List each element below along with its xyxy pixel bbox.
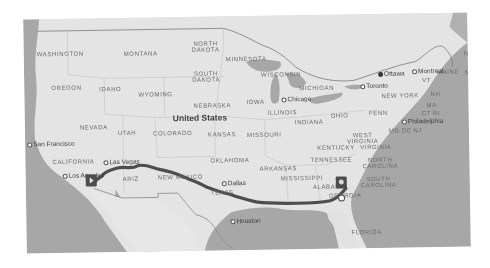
city-label-ottawa[interactable]: Ottawa xyxy=(378,70,405,77)
city-name: Dallas xyxy=(228,179,246,186)
state-label-tennessee: TENNESSEE xyxy=(310,156,352,163)
city-label-las-vegas[interactable]: Las Vegas xyxy=(103,158,139,166)
city-label-toronto[interactable]: Toronto xyxy=(360,82,388,89)
city-name: Houston xyxy=(236,217,260,224)
state-label-wisconsin: WISCONSIN xyxy=(261,71,301,78)
city-label-philadelphia[interactable]: Philadelphia xyxy=(402,117,444,125)
destination-point-icon[interactable] xyxy=(338,194,345,201)
state-label-colorado: COLORADO xyxy=(153,130,192,137)
state-label-oklahoma: OKLAHOMA xyxy=(210,157,249,164)
state-label-wyoming: WYOMING xyxy=(138,91,172,98)
state-label-penn: PENN xyxy=(369,110,388,116)
state-label-nebraska: NEBRASKA xyxy=(194,102,232,109)
state-label-illinois: ILLINOIS xyxy=(268,109,298,115)
state-label-ohio: OHIO xyxy=(331,112,349,118)
city-name: Ottawa xyxy=(384,70,405,77)
state-label-md-de-nj: MD DE NJ xyxy=(389,127,422,134)
city-dot-icon xyxy=(27,142,32,147)
state-label-nb: NB xyxy=(464,50,471,56)
origin-marker-icon[interactable] xyxy=(86,174,97,186)
state-label-oregon: OREGON xyxy=(51,85,81,91)
state-label-south-carolina: SOUTHCAROLINA xyxy=(361,176,397,189)
city-label-san-francisco[interactable]: San Francisco xyxy=(27,140,75,148)
city-name: San Francisco xyxy=(33,140,75,148)
city-label-houston[interactable]: Houston xyxy=(230,217,260,224)
state-label-ma: MA xyxy=(427,102,437,108)
state-label-south-dakota: SOUTHDAKOTA xyxy=(192,70,220,82)
state-label-west-virginia: WESTVIRGINIA xyxy=(347,132,378,144)
state-label-missouri: MISSOURI xyxy=(247,131,282,138)
state-label-north-carolina: NORTHCAROLINA xyxy=(362,157,398,170)
city-name: Philadelphia xyxy=(408,117,444,125)
state-label-ct-ri: CT RI xyxy=(422,110,441,116)
city-dot-icon xyxy=(281,97,286,102)
city-name: Montreal xyxy=(418,67,443,74)
city-label-montreal[interactable]: Montreal xyxy=(412,67,443,74)
city-dot-icon xyxy=(360,84,365,89)
city-dot-icon xyxy=(222,181,227,186)
state-label-kentucky: KENTUCKY xyxy=(317,144,355,151)
city-name: Las Vegas xyxy=(109,158,139,165)
state-label-nevada: NEVADA xyxy=(80,124,108,130)
state-label-vt: VT xyxy=(422,77,431,83)
state-label-michigan: MICHIGAN xyxy=(299,85,334,92)
state-label-nova: NOVA xyxy=(465,69,471,75)
state-label-nh: NH xyxy=(430,91,440,97)
city-label-chicago[interactable]: Chicago xyxy=(281,95,311,102)
state-label-utah: UTAH xyxy=(118,130,136,136)
state-label-iowa: IOWA xyxy=(246,99,264,105)
city-dot-icon xyxy=(230,219,235,224)
city-name: Chicago xyxy=(287,95,311,102)
state-label-arkansas: ARKANSAS xyxy=(260,165,298,172)
state-label-arizona: ARIZ xyxy=(123,176,139,182)
city-label-dallas[interactable]: Dallas xyxy=(222,179,246,186)
city-name: Toronto xyxy=(366,82,388,89)
state-label-texas: TEXAS xyxy=(211,189,234,195)
city-dot-icon xyxy=(402,119,407,124)
country-label: United States xyxy=(173,112,227,123)
state-label-indiana: INDIANA xyxy=(295,119,324,125)
city-dot-icon xyxy=(63,174,68,179)
state-label-montana: MONTANA xyxy=(124,50,158,57)
city-dot-icon xyxy=(378,72,383,77)
state-label-new-york: NEW YORK xyxy=(381,92,418,99)
state-label-minnesota: MINNESOTA xyxy=(226,56,267,63)
city-dot-icon xyxy=(412,69,417,74)
state-label-new-mexico: NEW MEXICO xyxy=(158,174,203,181)
state-label-mississippi: MISSISSIPPI xyxy=(281,175,323,182)
state-label-california: CALIFORNIA xyxy=(52,158,94,165)
state-label-virginia: VIRGINIA xyxy=(360,144,391,150)
destination-marker-icon[interactable] xyxy=(336,176,347,188)
city-label-los-angeles[interactable]: Los Angeles xyxy=(63,171,105,179)
state-label-georgia: GEORGIA xyxy=(329,192,361,199)
city-dot-icon xyxy=(103,160,108,165)
state-label-kansas: KANSAS xyxy=(208,131,236,137)
state-label-north-dakota: NORTHDAKOTA xyxy=(192,40,220,52)
map-view[interactable]: WASHINGTONMONTANANORTHDAKOTAMINNESOTAORE… xyxy=(23,13,471,254)
state-label-idaho: IDAHO xyxy=(99,86,121,92)
state-label-washington: WASHINGTON xyxy=(37,51,84,58)
state-label-florida: FLORIDA xyxy=(352,229,382,235)
